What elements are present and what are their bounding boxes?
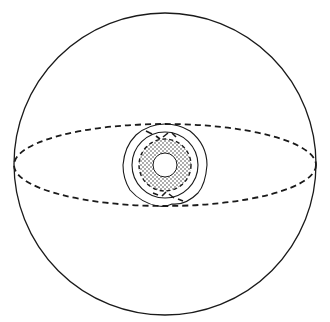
torus-inner-hole: [153, 153, 177, 177]
sphere-diagram: [0, 0, 330, 322]
